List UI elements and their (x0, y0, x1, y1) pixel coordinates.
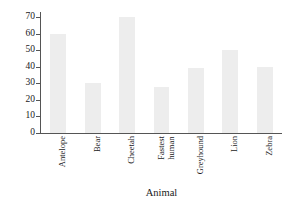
x-axis-tick-label-line: Bear (92, 136, 102, 152)
bar (188, 68, 204, 133)
x-axis-tick-label-line: Cheetah (126, 136, 136, 164)
x-axis-tick-label-line: Zebra (264, 136, 274, 156)
y-axis-tick-label: 60 (26, 29, 36, 39)
x-axis-tick-label: Antelope (58, 136, 68, 167)
y-axis-tick-label: 40 (26, 62, 36, 72)
x-axis-tick-label: Greyhound (196, 136, 206, 174)
bar (119, 17, 135, 133)
x-axis-title: Animal (41, 186, 282, 199)
bar-chart: Speed (in miles per hour) 01020304050607… (0, 0, 283, 205)
x-axis-tick-label: Cheetah (127, 136, 137, 164)
x-axis-line (40, 133, 282, 134)
bar (50, 34, 66, 133)
y-axis-tick-label: 70 (26, 12, 36, 22)
x-axis-tick-label: Fastesthuman (157, 136, 176, 160)
y-axis-tick-label: 50 (26, 45, 36, 55)
x-axis-tick-label-line: Antelope (57, 136, 67, 167)
x-axis-tick-label-line: Greyhound (195, 136, 205, 174)
x-axis-tick-label-line: human (166, 136, 176, 160)
y-axis-tick-labels: 010203040506070 (17, 12, 35, 134)
y-axis-tick-label: 10 (26, 112, 36, 122)
y-axis-tick-label: 0 (30, 128, 35, 138)
bar (257, 67, 273, 133)
x-axis-tick-label-line: Lion (229, 136, 239, 152)
x-axis-tick-label-line: Fastest (156, 136, 166, 160)
x-axis-tick-label: Bear (93, 136, 103, 152)
y-axis-tick-label: 20 (26, 95, 36, 105)
y-axis-tick-label: 30 (26, 79, 36, 89)
bar (85, 83, 101, 133)
x-axis-tick-label: Zebra (265, 136, 275, 156)
bar (222, 50, 238, 133)
bar (154, 87, 170, 133)
x-axis-tick-label: Lion (230, 136, 240, 152)
x-axis-tick-labels: AntelopeBearCheetahFastesthumanGreyhound… (41, 136, 282, 182)
plot-area (41, 12, 282, 133)
